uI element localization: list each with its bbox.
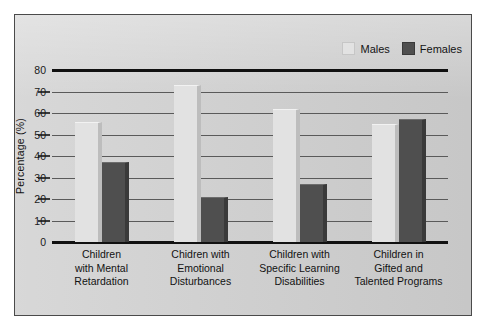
bar-body	[75, 122, 102, 242]
x-axis-label-3: Children withSpecific LearningDisabiliti…	[250, 248, 349, 289]
chart-legend: Males Females	[342, 42, 462, 55]
bar-group-2	[151, 70, 250, 242]
bar-males-3	[273, 109, 300, 242]
bar-females-4	[399, 119, 426, 242]
legend-swatch-females-icon	[402, 42, 415, 55]
bar-body	[300, 184, 327, 242]
bar-body	[102, 162, 129, 242]
bar-group-3	[250, 70, 349, 242]
y-tick-label-60: 60	[34, 108, 46, 119]
y-tick-label-0: 0	[40, 237, 46, 248]
bar-group-4	[349, 70, 448, 242]
bar-females-3	[300, 184, 327, 242]
x-axis-label-line: Chidren with	[151, 248, 250, 262]
legend-item-males: Males	[342, 42, 389, 55]
x-axis-label-4: Children inGifted andTalented Programs	[349, 248, 448, 289]
x-axis-label-line: Disabilities	[250, 275, 349, 289]
legend-item-females: Females	[402, 42, 462, 55]
x-axis-label-line: Disturbances	[151, 275, 250, 289]
x-axis-label-line: Children with	[250, 248, 349, 262]
y-tick-label-10: 10	[34, 215, 46, 226]
y-tick-label-20: 20	[34, 194, 46, 205]
x-axis-label-2: Chidren withEmotionalDisturbances	[151, 248, 250, 289]
bar-group-1	[52, 70, 151, 242]
x-axis-label-line: Specific Learning	[250, 262, 349, 276]
bar-males-1	[75, 122, 102, 242]
chart-figure: Percentage (%) 80706050403020100 Males F…	[0, 0, 488, 331]
bar-body	[273, 109, 300, 242]
legend-label-females: Females	[420, 43, 462, 55]
y-tick-label-50: 50	[34, 129, 46, 140]
legend-label-males: Males	[360, 43, 389, 55]
bars-layer	[52, 70, 448, 242]
bar-body	[201, 197, 228, 242]
bar-body	[399, 119, 426, 242]
x-axis-labels: Childrenwith MentalRetardationChidren wi…	[52, 248, 448, 304]
bar-females-2	[201, 197, 228, 242]
x-axis-label-1: Childrenwith MentalRetardation	[52, 248, 151, 289]
x-axis-label-line: Emotional	[151, 262, 250, 276]
x-axis-label-line: Children	[52, 248, 151, 262]
y-axis-title: Percentage (%)	[14, 118, 26, 194]
legend-swatch-males-icon	[342, 42, 355, 55]
x-axis-label-line: Talented Programs	[349, 275, 448, 289]
bar-females-1	[102, 162, 129, 242]
x-axis-label-line: with Mental	[52, 262, 151, 276]
x-axis-label-line: Gifted and	[349, 262, 448, 276]
bar-body	[174, 85, 201, 242]
x-axis-label-line: Children in	[349, 248, 448, 262]
bar-males-4	[372, 124, 399, 242]
x-axis-label-line: Retardation	[52, 275, 151, 289]
y-tick-label-80: 80	[34, 65, 46, 76]
y-tick-label-30: 30	[34, 172, 46, 183]
y-tick-label-70: 70	[34, 86, 46, 97]
bar-body	[372, 124, 399, 242]
bar-males-2	[174, 85, 201, 242]
y-tick-label-40: 40	[34, 151, 46, 162]
